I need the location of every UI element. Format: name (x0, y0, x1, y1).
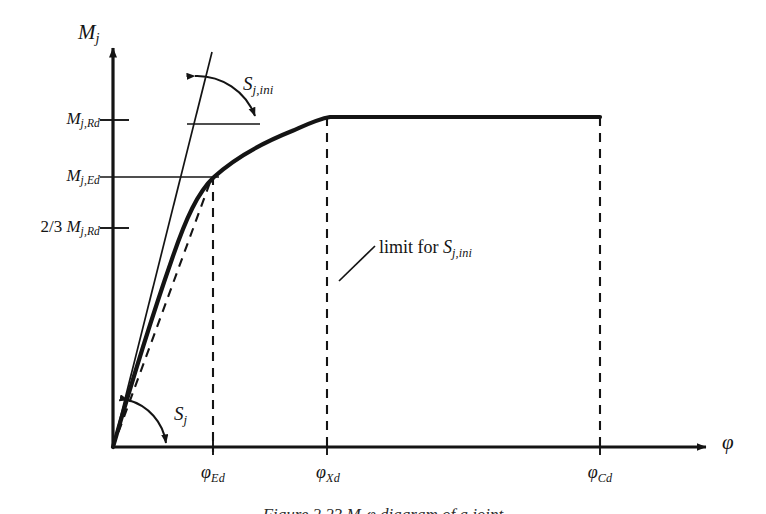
annotation-initial-stiffness: Sj,ini (243, 74, 274, 93)
secant-stiffness-line (113, 177, 212, 447)
initial-stiffness-tangent (113, 52, 212, 447)
axis-label-y: Mj (78, 22, 100, 43)
figure-caption: Figure 2.23 M-φ diagram of a joint (0, 505, 766, 514)
figure-root: Mj φ Mj,Rd Mj,Ed 2/3 Mj,Rd φEd φXd φCd S… (0, 0, 766, 514)
annotation-secant-stiffness: Sj (174, 404, 187, 423)
y-tick-label-mjed: Mj,Ed (0, 167, 100, 184)
x-tick-label-phixd: φXd (288, 463, 368, 481)
moment-rotation-chart (0, 0, 766, 514)
axis-label-x: φ (722, 432, 734, 453)
annotation-limit-note: limit for Sj,ini (379, 238, 472, 256)
moment-rotation-curve (113, 117, 600, 447)
x-tick-label-phicd: φCd (560, 463, 640, 481)
limit-leader-line (339, 246, 375, 281)
y-tick-label-23mjrd: 2/3 Mj,Rd (0, 218, 100, 235)
y-tick-label-mjrd: Mj,Rd (0, 110, 100, 127)
angle-arc-sj (128, 400, 166, 443)
x-tick-label-phied: φEd (173, 463, 253, 481)
